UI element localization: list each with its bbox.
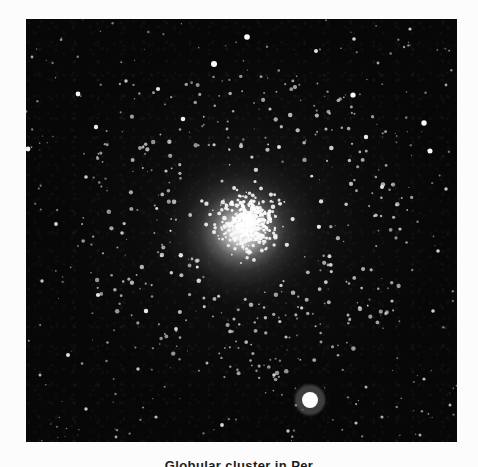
scanned-page: Globular cluster in Per <box>0 0 478 467</box>
figure-caption: Globular cluster in Per <box>0 458 478 467</box>
globular-cluster-photograph <box>26 19 457 442</box>
star-field-layer <box>26 19 457 442</box>
